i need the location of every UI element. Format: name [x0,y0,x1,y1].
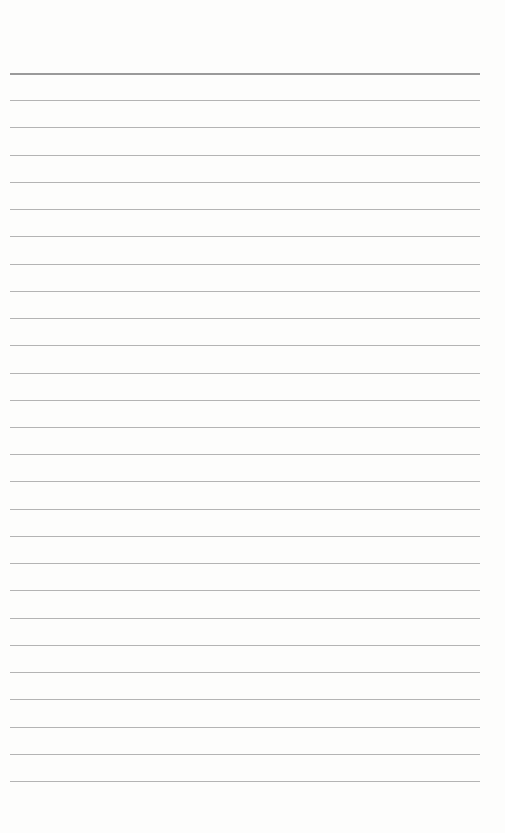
top-rule-line [10,73,480,75]
rule-line [10,236,480,237]
lined-page [0,0,505,833]
rule-line [10,781,480,782]
rule-line [10,754,480,755]
rule-line [10,345,480,346]
rule-line [10,672,480,673]
rule-line [10,209,480,210]
rule-line [10,618,480,619]
rule-line [10,291,480,292]
rule-line [10,155,480,156]
rule-line [10,481,480,482]
rule-line [10,318,480,319]
rule-line [10,100,480,101]
rule-line [10,590,480,591]
rule-line [10,454,480,455]
rule-line [10,127,480,128]
rule-line [10,264,480,265]
rule-line [10,400,480,401]
rule-line [10,563,480,564]
rule-line [10,699,480,700]
rule-line [10,645,480,646]
rule-line [10,727,480,728]
rule-line [10,373,480,374]
rule-line [10,536,480,537]
rule-line [10,509,480,510]
rule-line [10,427,480,428]
rule-line [10,182,480,183]
